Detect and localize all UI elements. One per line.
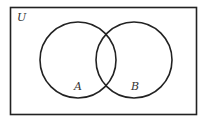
venn-diagram: U A B [0,0,207,119]
set-a-label: A [73,80,82,93]
universe-rectangle [11,8,197,115]
set-b-label: B [130,80,139,93]
universe-label: U [17,11,27,24]
